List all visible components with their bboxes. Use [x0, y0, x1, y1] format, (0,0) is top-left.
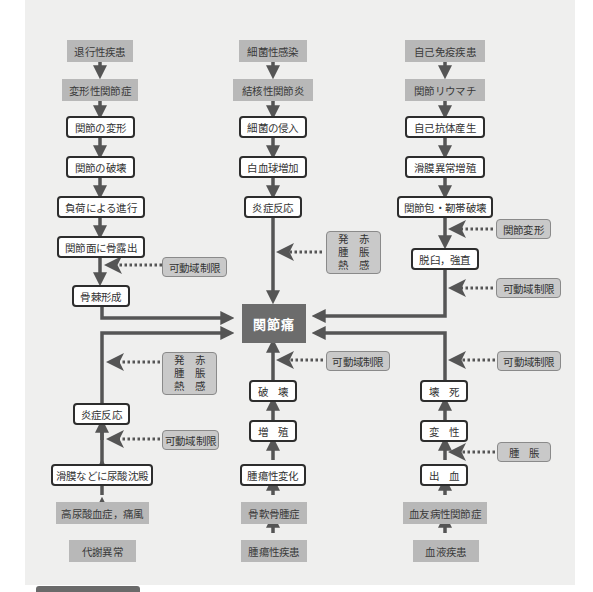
source-metabolic-disorder: 代謝異常	[69, 540, 136, 562]
note-rom-limitation: 可動域制限	[497, 351, 561, 371]
note-swelling: 腫 脹	[497, 442, 551, 462]
note-line-swelling: 腫 脹	[174, 367, 205, 380]
step-osteophyte-formation: 骨棘形成	[72, 285, 130, 307]
step-neoplastic-change: 腫瘍性変化	[240, 464, 306, 486]
note-line-heat: 熱 感	[174, 380, 205, 393]
note-rom-limitation: 可動域制限	[326, 351, 390, 371]
note-line-redness: 発 赤	[338, 233, 369, 246]
source-hyperuricemia-gout: 高尿酸血症，痛風	[56, 502, 149, 524]
step-synovial-proliferation: 滑膜異常増殖	[405, 156, 485, 178]
note-rom-limitation: 可動域制限	[162, 257, 227, 277]
note-line-redness: 発 赤	[174, 354, 205, 367]
step-inflammatory-response: 炎症反応	[73, 403, 130, 425]
step-capsule-ligament-destruction: 関節包・靭帯破壊	[397, 196, 493, 218]
step-degeneration: 変 性	[420, 420, 468, 442]
step-joint-deformation: 関節の変形	[66, 116, 135, 138]
step-hemorrhage: 出 血	[420, 464, 468, 486]
source-hemophilic-arthropathy: 血友病性関節症	[403, 502, 487, 524]
step-bacterial-invasion: 細菌の侵入	[239, 116, 307, 138]
step-bone-exposure: 関節面に骨露出	[57, 236, 145, 258]
step-destruction: 破 壊	[249, 380, 297, 402]
step-load-progression: 負荷による進行	[57, 196, 145, 218]
step-necrosis: 壊 死	[420, 380, 468, 402]
source-degenerative-disease: 退行性疾患	[67, 40, 133, 62]
step-leukocytosis: 白血球増加	[239, 156, 307, 178]
step-joint-destruction: 関節の破壊	[66, 156, 135, 178]
note-inflammation-signs: 発 赤 腫 脹 熱 感	[162, 352, 217, 395]
note-line-heat: 熱 感	[338, 259, 369, 272]
source-blood-disorder: 血液疾患	[413, 540, 479, 562]
step-autoantibody-production: 自己抗体産生	[405, 116, 485, 138]
step-dislocation-ankylosis: 脱臼，強直	[411, 248, 479, 270]
source-osteochondromatosis: 骨軟骨腫症	[241, 502, 307, 524]
source-autoimmune-disease: 自己免疫疾患	[405, 40, 485, 62]
note-joint-deformity: 関節変形	[496, 219, 551, 239]
note-rom-limitation: 可動域制限	[162, 430, 219, 450]
source-rheumatoid-arthritis: 関節リウマチ	[405, 79, 485, 101]
center-joint-pain: 関節痛	[242, 304, 306, 343]
note-rom-limitation: 可動域制限	[496, 278, 561, 298]
step-proliferation: 増 殖	[249, 420, 297, 442]
step-urate-deposition: 滑膜などに尿酸沈殿	[51, 464, 153, 486]
source-neoplastic-disease: 腫瘍性疾患	[241, 540, 307, 562]
source-tuberculous-arthritis: 結核性関節炎	[233, 79, 313, 101]
source-bacterial-infection: 細菌性感染	[239, 40, 307, 62]
step-inflammatory-response: 炎症反応	[244, 196, 302, 218]
note-inflammation-signs: 発 赤 腫 脹 熱 感	[326, 231, 381, 274]
note-line-swelling: 腫 脹	[338, 246, 369, 259]
source-osteoarthritis: 変形性関節症	[62, 79, 138, 101]
